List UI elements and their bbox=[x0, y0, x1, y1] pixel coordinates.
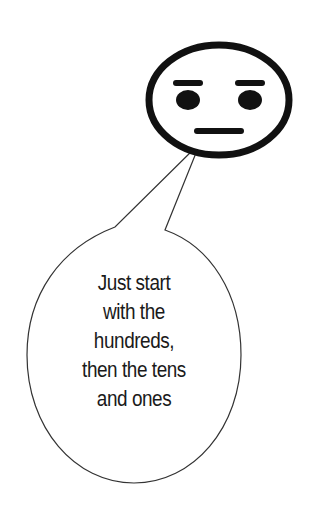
bubble-line-4: then the tens bbox=[42, 355, 226, 384]
bubble-line-3: hundreds, bbox=[42, 326, 226, 355]
bubble-line-5: and ones bbox=[42, 384, 226, 413]
comic-scene: Just start with the hundreds, then the t… bbox=[0, 0, 309, 510]
bubble-line-2: with the bbox=[42, 297, 226, 326]
right-eye bbox=[238, 90, 262, 110]
left-eyebrow bbox=[173, 80, 203, 86]
neutral-face-icon bbox=[149, 45, 289, 155]
illustration bbox=[0, 0, 309, 510]
speech-bubble-text: Just start with the hundreds, then the t… bbox=[42, 268, 226, 413]
left-eye bbox=[176, 90, 200, 110]
mouth bbox=[194, 128, 244, 134]
right-eyebrow bbox=[235, 80, 265, 86]
bubble-line-1: Just start bbox=[42, 268, 226, 297]
